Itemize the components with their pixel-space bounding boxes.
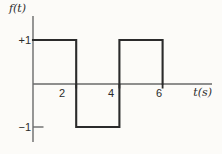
- y-axis-label: f(t): [9, 3, 26, 15]
- x-tick-label-4: 4: [103, 87, 119, 99]
- y-tick-label-plus1: +1: [10, 34, 31, 46]
- waveform-chart: [0, 0, 222, 154]
- square-wave-figure: f(t) t(s) +1 −1 2 4 6: [0, 0, 222, 154]
- y-tick-label-minus1: −1: [10, 121, 31, 133]
- x-tick-label-2: 2: [54, 87, 70, 99]
- x-axis-label: t(s): [188, 87, 212, 99]
- x-tick-label-6: 6: [151, 87, 167, 99]
